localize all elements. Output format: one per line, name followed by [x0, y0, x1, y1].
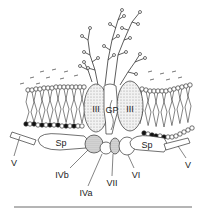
label-band7: VII	[106, 178, 117, 188]
band7	[110, 138, 120, 154]
lipid-bilayer-right	[140, 83, 194, 139]
label-band3-right: III	[126, 104, 134, 114]
label-band4-1a: IVa	[80, 188, 93, 198]
label-band5-left: V	[11, 158, 17, 168]
sugar-residues	[79, 9, 147, 76]
label-band6: VI	[132, 170, 141, 180]
label-band4-1b: IVb	[55, 170, 69, 180]
membrane-diagram: GP III III Sp Sp V V IVb IVa VII VI	[0, 0, 201, 217]
extracellular-dashes	[20, 69, 182, 84]
lipid-bilayer-left	[24, 85, 86, 128]
band5-left	[10, 132, 36, 145]
band5-right	[164, 138, 190, 150]
label-spectrin-left: Sp	[55, 138, 66, 148]
label-glycophorin: GP	[105, 105, 118, 115]
label-band3-left: III	[92, 104, 100, 114]
label-band5-right: V	[185, 160, 191, 170]
label-spectrin-right: Sp	[141, 140, 152, 150]
